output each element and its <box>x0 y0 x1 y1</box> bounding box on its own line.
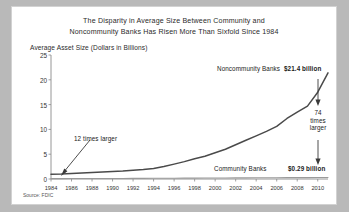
series-line-noncommunity-banks <box>51 73 328 174</box>
chart-page: The Disparity in Average Size Between Co… <box>0 0 349 212</box>
annotation-arrow-community <box>315 140 320 165</box>
annotation-community-banks: Community Banks <box>214 165 267 172</box>
annotation-noncommunity-banks: Noncommunity Banks <box>217 65 280 72</box>
annotation-arrow-12-times <box>61 140 90 176</box>
annotation-74-line-2: times <box>310 117 326 124</box>
annotation-arrow-peak <box>315 79 320 106</box>
annotation-12-times-larger: 12 times larger <box>74 135 117 142</box>
source-note: Source: FDIC <box>23 192 53 198</box>
annotation-noncommunity-value: $21.4 billion <box>284 65 321 72</box>
chart-plot-area <box>12 7 338 206</box>
annotation-community-value: $0.29 billion <box>288 165 325 172</box>
annotation-74-times-larger: 74 times larger <box>301 109 335 132</box>
annotation-74-line-1: 74 <box>314 109 321 116</box>
series-line-community-banks <box>51 178 328 179</box>
annotation-74-line-3: larger <box>310 124 327 131</box>
chart-panel: The Disparity in Average Size Between Co… <box>11 6 337 205</box>
